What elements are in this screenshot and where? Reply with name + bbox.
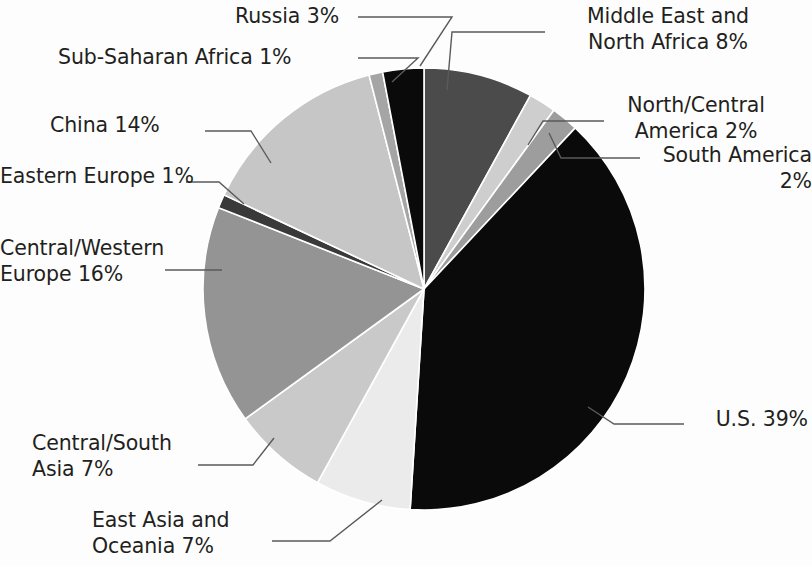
pie-label-china: China 14%: [50, 112, 212, 138]
pie-label-russia: Russia 3%: [212, 3, 362, 29]
pie-label-central-south-asia: Central/South Asia 7%: [32, 430, 214, 482]
pie-label-sub-saharan-africa: Sub-Saharan Africa 1%: [58, 44, 362, 70]
pie-chart-page: Russia 3% Sub-Saharan Africa 1% China 14…: [0, 0, 812, 566]
pie-label-north-central-america: North/Central America 2%: [596, 92, 796, 144]
leader-line-east-asia-oceania: [272, 500, 382, 541]
pie-label-south-america: South America 2%: [648, 142, 812, 194]
pie-label-middle-east-north-africa: Middle East and North Africa 8%: [552, 3, 784, 55]
pie-label-eastern-europe: Eastern Europe 1%: [0, 163, 205, 189]
pie-label-east-asia-oceania: East Asia and Oceania 7%: [92, 507, 274, 559]
pie-label-central-western-europe: Central/Western Europe 16%: [0, 235, 192, 287]
pie-label-us: U.S. 39%: [690, 406, 808, 432]
